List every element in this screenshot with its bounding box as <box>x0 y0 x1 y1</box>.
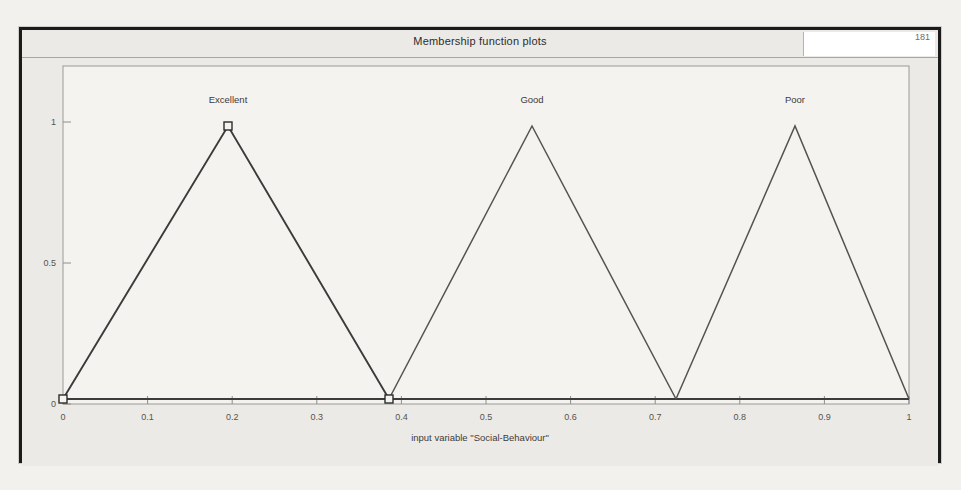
x-tick-0-6: 0.6 <box>564 412 577 422</box>
x-tick-0-4: 0.4 <box>395 412 408 422</box>
mf-label-good: Good <box>520 94 543 105</box>
x-tick-0-3: 0.3 <box>311 412 324 422</box>
x-tick-0: 0 <box>60 412 65 422</box>
x-tick-0-5: 0.5 <box>480 412 493 422</box>
plot-area[interactable]: Excellent Good Poor 1 0.5 0 0 0.1 0.2 0.… <box>22 58 938 466</box>
window-title: Membership function plots <box>22 35 938 47</box>
mf-label-poor: Poor <box>785 94 805 105</box>
x-axis-label: input variable "Social-Behaviour" <box>22 432 938 443</box>
y-tick-1: 1 <box>28 117 56 127</box>
x-tick-1: 1 <box>906 412 911 422</box>
x-tick-0-2: 0.2 <box>226 412 239 422</box>
membership-function-chart <box>22 58 938 466</box>
corner-page-number: 181 <box>915 32 930 42</box>
y-tick-0-5: 0.5 <box>28 258 56 268</box>
membership-function-plot-window: Membership function plots 181 <box>19 27 941 463</box>
x-tick-0-7: 0.7 <box>649 412 662 422</box>
x-tick-0-1: 0.1 <box>141 412 154 422</box>
x-tick-0-8: 0.8 <box>734 412 747 422</box>
title-bar-corner-panel[interactable]: 181 <box>803 32 935 56</box>
mf-label-excellent: Excellent <box>209 94 248 105</box>
y-tick-0: 0 <box>28 399 56 409</box>
x-tick-0-9: 0.9 <box>818 412 831 422</box>
window-title-bar: Membership function plots 181 <box>22 30 938 58</box>
